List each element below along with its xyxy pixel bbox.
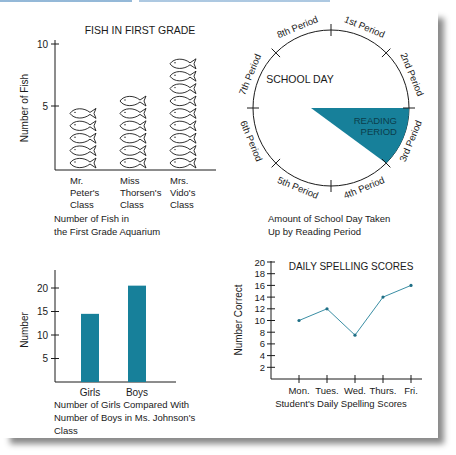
y-tick-label: 20 [254,257,265,268]
x-tick-label: Wed. [344,385,366,396]
chart-caption-line: Number of Fish in [54,213,129,224]
y-tick-label: 5 [42,353,48,364]
x-tick-label: Tues. [315,385,338,396]
category-label: Miss [120,175,140,186]
x-tick-label: Mon. [288,385,309,396]
fish-icon [170,158,196,168]
y-axis-label: Number Correct [233,284,244,355]
fish-icon [170,146,196,156]
score-line [299,285,411,335]
fish-icon [120,108,146,118]
fish-icon [170,71,196,81]
y-tick-label: 4 [260,350,265,361]
category-label: Mr. [70,175,83,186]
charts-canvas: FISH IN FIRST GRADE 10 5 Number of Fish … [0,0,456,455]
chart-caption: Student's Daily Spelling Scores [275,398,407,409]
fish-icon [170,121,196,131]
y-tick-label: 10 [254,315,265,326]
y-tick-label: 10 [37,39,49,50]
wedge-label-line: PERIOD [361,126,398,137]
y-tick-label: 10 [37,330,49,341]
chart-title: FISH IN FIRST GRADE [85,24,196,36]
fish-icon [70,121,96,131]
y-tick-label: 20 [37,283,49,294]
y-tick-label: 15 [37,306,49,317]
category-label: Class [120,199,144,210]
y-tick-label: 12 [254,303,265,314]
y-ticks: 5101520 [37,283,59,365]
category-labels: Mr.Peter'sClassMissThorsen'sClassMrs.Vid… [70,175,196,210]
category-label: Mrs. [170,175,188,186]
wedge-label-line: READING [354,115,397,126]
pie-title: SCHOOL DAY [266,73,334,85]
spelling-line-chart: DAILY SPELLING SCORES 2468101214161820Mo… [233,257,422,410]
fish-icon [170,59,196,69]
y-tick-label: 18 [254,268,265,279]
category-label: Class [70,199,94,210]
category-label: Vido's [170,187,196,198]
chart-caption-line: Up by Reading Period [268,226,361,237]
fish-icon [170,133,196,143]
data-point [297,319,300,322]
fish-icon [170,84,196,94]
bars: GirlsBoys [80,286,148,398]
chart-caption-line: Number of Girls Compared With [54,399,189,410]
chart-caption-line: Class [54,425,78,436]
x-tick-label: Fri. [404,385,418,396]
y-tick-label: 16 [254,280,265,291]
data-point [325,307,328,310]
y-tick-label: 5 [42,101,48,112]
fish-icon [120,146,146,156]
chart-caption-line: Amount of School Day Taken [268,213,390,224]
data-point [353,334,356,337]
bar-girls [81,314,99,382]
data-point [409,284,412,287]
axis-ticks: 2468101214161820Mon.Tues.Wed.Thurs.Fri. [254,257,417,397]
y-tick-label: 8 [260,327,265,338]
fish-icon [120,121,146,131]
category-label: Thorsen's [120,187,162,198]
fish-icon [70,133,96,143]
fish-icon [70,158,96,168]
category-label: Peter's [70,187,100,198]
y-tick-label: 6 [260,338,265,349]
fish-icon [120,158,146,168]
category-label: Class [170,199,194,210]
data-point [381,296,384,299]
fish-icon [70,108,96,118]
fish-icon [120,96,146,106]
fish-pictograph-chart: FISH IN FIRST GRADE 10 5 Number of Fish … [19,24,216,237]
y-tick-label: 14 [254,292,265,303]
chart-title: DAILY SPELLING SCORES [289,261,414,272]
bar-boys [128,286,146,382]
fish-icon [120,133,146,143]
chart-caption-line: the First Grade Aquarium [54,226,160,237]
y-axis-label: Number of Fish [19,74,30,142]
school-day-pie-chart: 1st Period2nd Period3rd Period4th Period… [236,13,426,237]
y-axis-label: Number [19,312,30,348]
fish-stacks [70,59,196,168]
girls-boys-bar-chart: 5101520 GirlsBoys Number Number of Girls… [19,270,195,436]
fish-icon [70,146,96,156]
chart-caption-line: Number of Boys in Ms. Johnson's [54,412,195,423]
category-label: Boys [126,387,148,398]
fish-icon [170,108,196,118]
category-label: Girls [80,387,101,398]
fish-icon [170,96,196,106]
y-tick-label: 2 [260,362,265,373]
x-tick-label: Thurs. [370,385,397,396]
